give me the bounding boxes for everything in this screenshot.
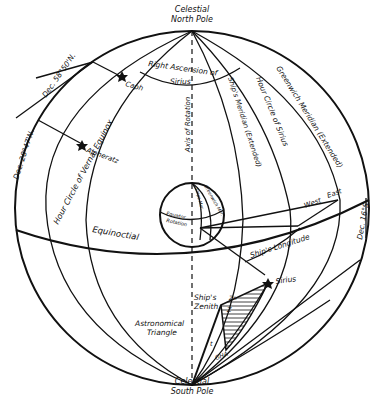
celestial-sphere-diagram: Celestial North Pole Celestial South Pol… bbox=[0, 0, 383, 397]
triangle-label-2: Triangle bbox=[147, 328, 177, 337]
right-ascension-label-2: Sirius bbox=[170, 77, 191, 86]
zenith-label-2: Zenith bbox=[193, 302, 219, 311]
right-ascension-label-1: Right Ascension of bbox=[148, 59, 220, 78]
zenith-label-1: Ship's bbox=[194, 293, 216, 302]
sirius-label: Sirius bbox=[275, 274, 297, 286]
south-pole-label-1: Celestial bbox=[175, 377, 210, 386]
south-pole-label-2: South Pole bbox=[171, 387, 214, 396]
zn-label: Zn bbox=[228, 294, 237, 301]
north-pole-label-2: North Pole bbox=[171, 15, 213, 24]
longitude-line-2 bbox=[200, 226, 298, 228]
axis-label: Axis of Rotation bbox=[184, 97, 192, 153]
caph-label: Caph bbox=[124, 80, 144, 92]
north-pole-label-1: Celestial bbox=[175, 5, 210, 14]
triangle-label-1: Astronomical bbox=[134, 319, 185, 328]
equinoctial-label: Equinoctial bbox=[92, 224, 141, 242]
east-label: East bbox=[326, 187, 343, 200]
west-label: West bbox=[303, 196, 323, 210]
dec-alpheratz-label: Dec. 28°47'N. bbox=[11, 128, 36, 180]
z-label: Z bbox=[226, 306, 232, 314]
lower-arc-2 bbox=[192, 300, 330, 385]
hour-circle-vernal-equinox-label: Hour Circle of Vernal Equinox bbox=[52, 118, 115, 226]
greenwich-meridian-label: Greenwich Meridian (Extended) bbox=[274, 64, 345, 169]
caph-connector bbox=[93, 62, 122, 77]
ships-meridian-label: Ship's Meridian (Extended) bbox=[226, 76, 263, 168]
earth-ships-meridian-label: Ships Mer. bbox=[194, 187, 205, 211]
hour-circle-sirius-line bbox=[192, 31, 291, 385]
t-label: t bbox=[210, 340, 213, 348]
dec-alpheratz-bracket bbox=[16, 62, 93, 118]
